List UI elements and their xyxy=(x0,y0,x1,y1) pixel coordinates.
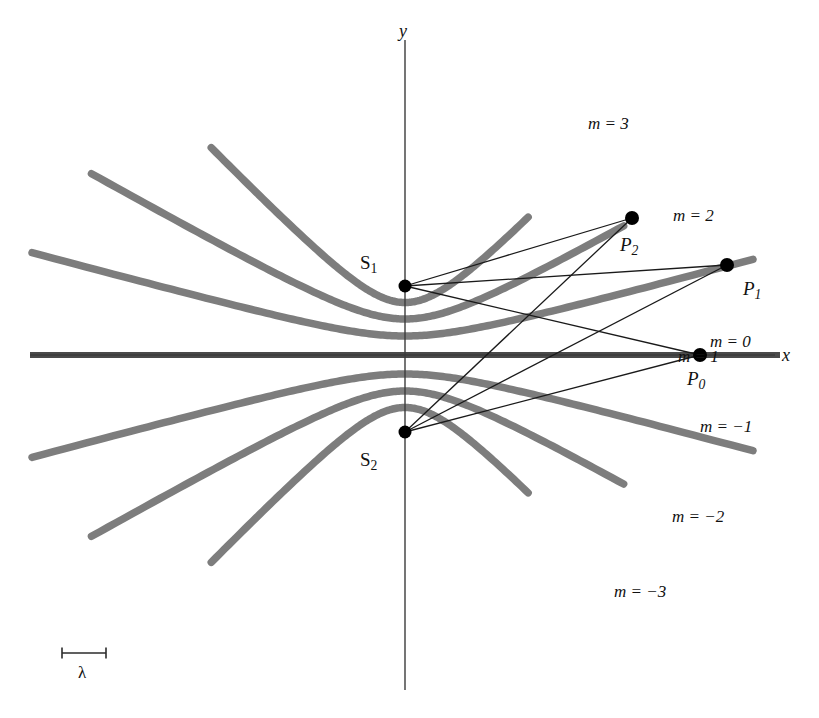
point-dot-p2[interactable] xyxy=(625,211,639,225)
interference-figure: y x m = 3m = 2m = 1m = 0m = −1m = −2m = … xyxy=(0,0,819,718)
fringe-label-m-2: m = −2 xyxy=(672,508,724,525)
ray-s1-p0 xyxy=(405,286,700,355)
fringe-label-m2: m = 2 xyxy=(673,207,714,224)
point-label-p2: P2 xyxy=(620,235,638,258)
fringe-label-m-3: m = −3 xyxy=(614,583,666,600)
ray-s2-p0 xyxy=(405,355,700,432)
scale-bar-label: λ xyxy=(78,664,86,681)
fringe-label-m3: m = 3 xyxy=(588,115,629,132)
fringe-label-m-1: m = −1 xyxy=(700,418,752,435)
source-dot-s2[interactable] xyxy=(399,426,412,439)
fringe-curve-1 xyxy=(32,253,753,336)
point-label-p1: P1 xyxy=(743,279,761,302)
fringe-curve--1 xyxy=(32,374,753,457)
fringe-curve-3 xyxy=(211,148,528,303)
point-label-p0: P0 xyxy=(687,369,705,392)
source-label-s2: S2 xyxy=(360,450,377,473)
fringe-curve--2 xyxy=(91,391,623,536)
source-dot-s1[interactable] xyxy=(399,280,412,293)
x-axis-label: x xyxy=(782,346,790,364)
fringe-curve--3 xyxy=(211,408,528,563)
fringe-curve-2 xyxy=(91,174,623,319)
point-dot-p1[interactable] xyxy=(720,258,734,272)
scale-bar-group xyxy=(62,648,106,659)
fringe-label-m0: m = 0 xyxy=(710,333,751,350)
ray-s2-p2 xyxy=(405,218,632,432)
y-axis-label: y xyxy=(399,22,407,40)
source-label-s1: S1 xyxy=(360,253,377,276)
